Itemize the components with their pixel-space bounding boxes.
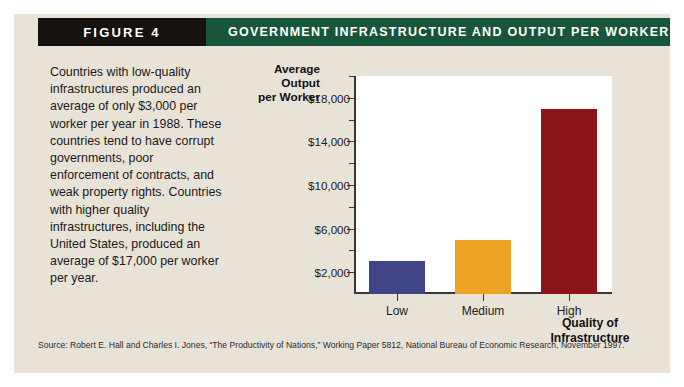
y-minor-tick-mark (349, 76, 354, 77)
source-note: Source: Robert E. Hall and Charles I. Jo… (38, 339, 658, 351)
y-minor-tick-mark (349, 250, 354, 251)
plot-wrapper: $2,000$6,000$10,000$14,000$18,000LowMedi… (354, 76, 612, 294)
y-tick-label: $10,000 (280, 179, 350, 192)
bar-low (369, 261, 425, 294)
y-minor-tick-mark (349, 207, 354, 208)
y-tick-label: $14,000 (280, 135, 350, 148)
x-axis-title-line-1: Quality of (520, 316, 660, 331)
y-minor-tick-mark (349, 120, 354, 121)
bar-high (541, 109, 597, 294)
figure-title: Government Infrastructure and Output per… (206, 18, 670, 46)
bar-medium (455, 240, 511, 295)
figure-header-bar: FIGURE 4 Government Infrastructure and O… (38, 18, 670, 46)
y-axis-title-line-1: Average (242, 62, 320, 76)
x-tick-mark (397, 294, 398, 301)
y-tick-label: $2,000 (280, 266, 350, 279)
y-tick-label: $18,000 (280, 91, 350, 104)
chart: Average Output per Worker $2,000$6,000$1… (242, 58, 662, 348)
figure-description: Countries with low-quality infrastructur… (50, 64, 222, 288)
x-tick-mark (483, 294, 484, 301)
figure-panel: FIGURE 4 Government Infrastructure and O… (14, 14, 670, 373)
x-tick-mark (569, 294, 570, 301)
y-tick-label: $6,000 (280, 222, 350, 235)
figure-number-tag: FIGURE 4 (38, 18, 206, 46)
y-minor-tick-mark (349, 163, 354, 164)
x-tick-label-medium: Medium (438, 304, 528, 318)
x-tick-label-low: Low (352, 304, 442, 318)
y-axis-title-line-2: Output (242, 76, 320, 90)
